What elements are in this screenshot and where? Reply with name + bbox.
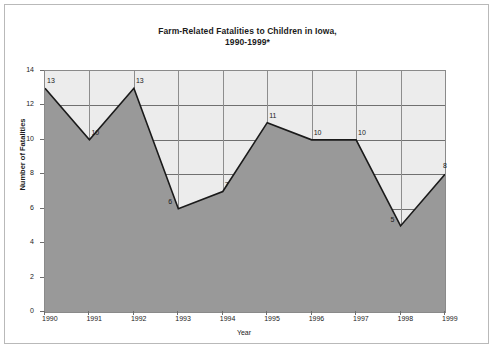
data-point-label: 10 [358,129,378,136]
x-axis-tick-mark [400,311,401,315]
chart-title: Farm-Related Fatalities to Children in I… [0,26,495,48]
x-axis-tick-label: 1990 [42,315,72,322]
data-point-label: 7 [225,181,245,188]
data-point-label: 10 [91,129,111,136]
x-axis-tick-mark [444,311,445,315]
x-axis-tick-label: 1998 [398,315,428,322]
data-point-label: 11 [269,112,289,119]
x-axis-tick-label: 1995 [264,315,294,322]
x-axis-tick-label: 1993 [175,315,205,322]
x-axis-tick-label: 1994 [220,315,250,322]
x-axis-tick-mark [177,311,178,315]
x-axis-tick-label: 1996 [309,315,339,322]
plot-inner [45,71,445,312]
data-point-label: 6 [168,198,188,205]
plot-area [44,70,446,313]
y-axis-tick-label: 6 [0,204,34,211]
data-point-label: 5 [391,216,411,223]
x-axis-tick-label: 1992 [131,315,161,322]
chart-figure: Farm-Related Fatalities to Children in I… [0,0,495,355]
y-axis-tick-label: 4 [0,238,34,245]
chart-title-line-1: Farm-Related Fatalities to Children in I… [158,26,337,36]
x-axis-tick-mark [311,311,312,315]
data-point-label: 10 [314,129,334,136]
y-axis-title: Number of Fatalities [18,100,27,210]
y-axis-tick-label: 0 [0,307,34,314]
data-point-label: 13 [136,77,156,84]
x-axis-tick-mark [44,311,45,315]
y-axis-tick-label: 14 [0,66,34,73]
data-point-label: 13 [47,77,67,84]
x-axis-tick-label: 1997 [353,315,383,322]
x-axis-tick-label: 1991 [86,315,116,322]
chart-title-line-2: 1990-1999* [0,37,495,48]
x-axis-tick-mark [88,311,89,315]
x-axis-tick-mark [133,311,134,315]
y-axis-tick-label: 12 [0,100,34,107]
y-axis-tick-label: 2 [0,273,34,280]
x-axis-tick-mark [355,311,356,315]
area-series [45,71,445,312]
x-axis-tick-label: 1999 [442,315,472,322]
y-axis-tick-label: 10 [0,135,34,142]
y-axis-tick-label: 8 [0,169,34,176]
x-axis-tick-mark [266,311,267,315]
x-axis-tick-mark [222,311,223,315]
x-axis-title: Year [44,329,444,336]
data-point-label: 8 [443,162,463,169]
